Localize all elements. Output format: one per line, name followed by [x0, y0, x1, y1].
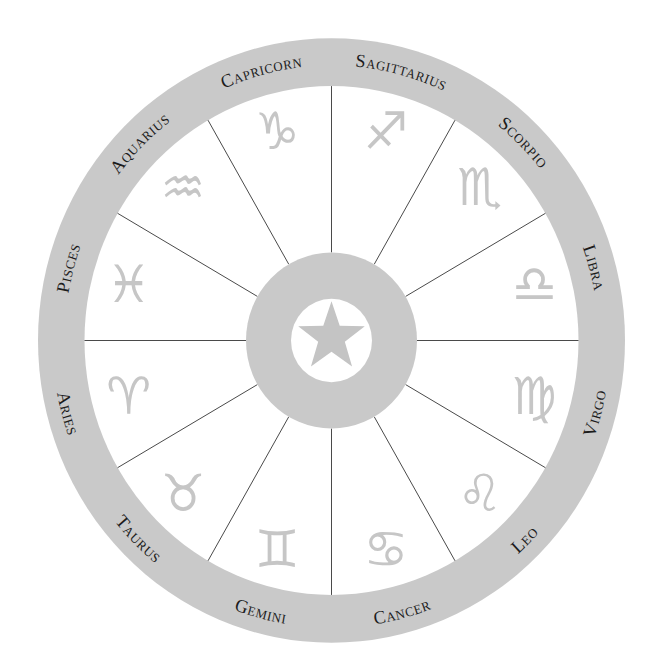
- taurus-icon: ♉︎: [161, 464, 206, 524]
- cancer-icon: ♋︎: [363, 519, 408, 579]
- pisces-icon: ♓︎: [106, 255, 151, 315]
- scorpio-icon: ♏︎: [458, 158, 503, 218]
- gemini-icon: ♊︎: [255, 519, 300, 579]
- capricorn-icon: ♑︎: [255, 102, 300, 162]
- zodiac-wheel: ♑︎♐︎♏︎♎︎♍︎♌︎♋︎♊︎♉︎♈︎♓︎♒︎ CapricornSagitt…: [0, 0, 651, 667]
- aries-icon: ♈︎: [106, 367, 151, 427]
- libra-icon: ♎︎: [512, 255, 557, 315]
- wheel-root: ♑︎♐︎♏︎♎︎♍︎♌︎♋︎♊︎♉︎♈︎♓︎♒︎ CapricornSagitt…: [38, 38, 625, 643]
- leo-icon: ♌︎: [458, 464, 503, 524]
- aquarius-icon: ♒︎: [161, 158, 206, 218]
- virgo-icon: ♍︎: [512, 367, 557, 427]
- sagittarius-icon: ♐︎: [363, 102, 408, 162]
